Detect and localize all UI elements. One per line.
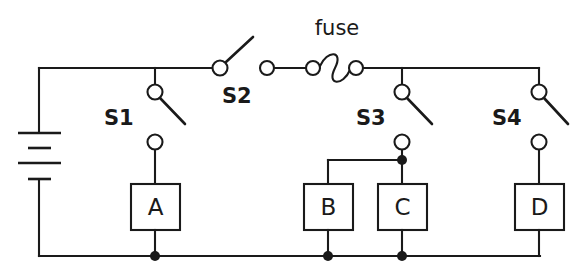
switch-s2[interactable] <box>213 37 275 76</box>
fuse-terminal-right <box>349 61 363 75</box>
fuse-terminal-left <box>306 61 320 75</box>
switch-s1[interactable] <box>148 68 186 150</box>
switch-s3-terminal-bottom[interactable] <box>395 135 410 150</box>
switch-s4-terminal-bottom[interactable] <box>532 135 547 150</box>
switch-s2-label: S2 <box>222 84 252 108</box>
switch-s2-terminal-right[interactable] <box>260 61 274 75</box>
circuit-diagram: S1 A S2 fuse S3 <box>0 0 584 272</box>
switch-s3-label: S3 <box>356 106 386 130</box>
switch-s4[interactable] <box>532 68 569 150</box>
component-box-d-label: D <box>531 194 549 220</box>
switch-s4-label: S4 <box>492 106 522 130</box>
junction-dot-a-bottom <box>150 251 160 261</box>
battery-symbol <box>18 133 61 179</box>
component-box-a-label: A <box>148 194 164 220</box>
junction-dot-b-bottom <box>323 251 333 261</box>
switch-s1-blade[interactable] <box>160 98 185 124</box>
component-box-b-label: B <box>321 194 337 220</box>
fuse-label: fuse <box>315 16 360 40</box>
switch-s1-terminal-bottom[interactable] <box>148 135 163 150</box>
switch-s2-blade[interactable] <box>226 37 253 62</box>
junction-dot-c-bottom <box>397 251 407 261</box>
circuit-canvas: S1 A S2 fuse S3 <box>0 0 584 272</box>
switch-s3-blade[interactable] <box>407 98 432 124</box>
component-box-c-label: C <box>394 194 410 220</box>
fuse-wavy-element <box>320 54 350 82</box>
fuse-symbol <box>306 54 363 82</box>
switch-s4-blade[interactable] <box>544 98 568 124</box>
switch-s3[interactable] <box>395 68 433 150</box>
switch-s1-label: S1 <box>104 106 134 130</box>
